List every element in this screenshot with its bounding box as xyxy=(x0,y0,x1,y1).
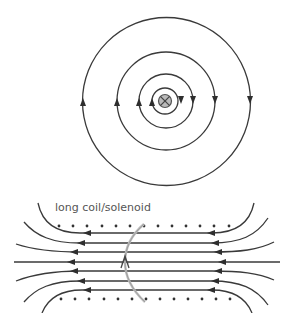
arrow-left-icon xyxy=(77,278,85,284)
arrow-left-icon xyxy=(214,249,222,255)
arrow-left-icon xyxy=(207,230,215,236)
field-line-5 xyxy=(16,271,274,281)
arrow-left-icon xyxy=(207,287,215,293)
arrow-up-icon xyxy=(114,98,120,106)
magnetic-field-diagram: long coil/solenoid xyxy=(0,0,294,313)
arrow-left-icon xyxy=(83,230,91,236)
arrow-left-icon xyxy=(77,240,85,246)
arrow-up-icon xyxy=(136,98,142,106)
arrow-left-icon xyxy=(83,287,91,293)
arrow-left-icon xyxy=(214,268,222,274)
straight-wire-field xyxy=(80,18,253,186)
arrow-left-icon xyxy=(211,240,219,246)
arrow-left-icon xyxy=(70,249,78,255)
current-into-page-icon xyxy=(159,95,172,108)
arrow-left-icon xyxy=(211,278,219,284)
arrow-down-icon xyxy=(190,96,196,104)
solenoid-field: long coil/solenoid xyxy=(14,201,280,313)
arrow-up-icon xyxy=(149,98,155,106)
arrow-down-icon xyxy=(247,96,253,104)
field-line-7 xyxy=(42,290,252,313)
arrow-left-icon xyxy=(70,268,78,274)
arrow-left-icon xyxy=(67,259,75,265)
arrow-down-icon xyxy=(178,96,184,104)
arrow-left-icon xyxy=(218,259,226,265)
solenoid-label: long coil/solenoid xyxy=(55,201,151,214)
bottom-coil-dots xyxy=(60,298,232,301)
arrow-down-icon xyxy=(212,96,218,104)
arrow-up-icon xyxy=(80,98,86,106)
